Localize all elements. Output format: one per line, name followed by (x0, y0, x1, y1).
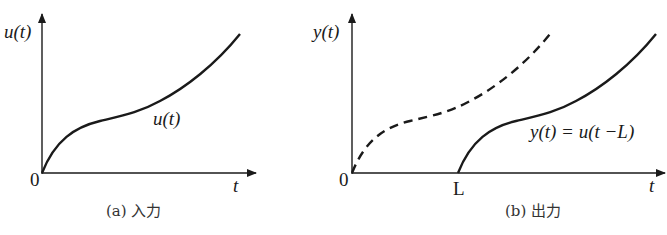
panel-b-caption: (b) 出力 (505, 204, 561, 219)
panel-b-delay-label: L (453, 179, 465, 198)
panel-a-curve-label: u(t) (153, 109, 180, 128)
panel-a-input-curve (42, 34, 240, 173)
panel-b-x-axis-label: t (649, 176, 654, 195)
panel-a-y-axis-label: u(t) (4, 22, 31, 41)
panel-b-y-axis-label: y(t) (313, 22, 339, 41)
panel-a-origin-label: 0 (30, 170, 40, 189)
panel-b-undelayed-dashed-curve (352, 34, 550, 173)
panel-b-axes (352, 14, 665, 174)
panel-b-curve-label: y(t) = u(t −L) (530, 122, 634, 141)
panel-a-x-axis-label: t (233, 176, 238, 195)
panel-b-delayed-output-curve (458, 34, 656, 173)
panel-a-axes (42, 14, 256, 174)
panel-a-caption: (a) 入力 (106, 204, 161, 219)
panel-b-origin-label: 0 (339, 170, 349, 189)
